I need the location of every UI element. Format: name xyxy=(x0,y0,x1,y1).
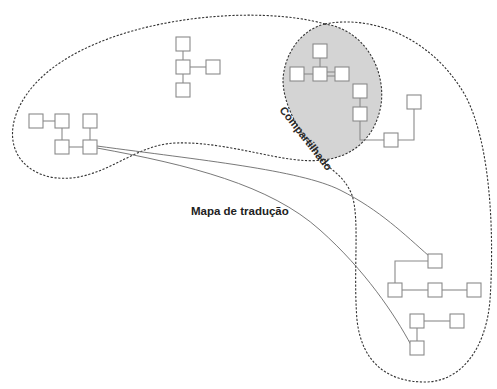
node[interactable] xyxy=(313,44,327,58)
node[interactable] xyxy=(55,114,69,128)
node[interactable] xyxy=(29,114,43,128)
node[interactable] xyxy=(353,107,367,121)
node[interactable] xyxy=(335,67,349,81)
node[interactable] xyxy=(176,83,190,97)
node[interactable] xyxy=(176,60,190,74)
node[interactable] xyxy=(407,95,421,109)
diagram-canvas xyxy=(0,0,497,389)
node[interactable] xyxy=(428,283,442,297)
node[interactable] xyxy=(290,67,304,81)
node[interactable] xyxy=(450,314,464,328)
node[interactable] xyxy=(384,133,398,147)
node[interactable] xyxy=(83,114,97,128)
cluster-bottom-right xyxy=(388,254,481,355)
translation-link-lower xyxy=(97,148,411,345)
node[interactable] xyxy=(428,254,442,268)
node[interactable] xyxy=(410,314,424,328)
translation-map-label: Mapa de tradução xyxy=(191,205,289,217)
node[interactable] xyxy=(176,37,190,51)
node[interactable] xyxy=(410,341,424,355)
node[interactable] xyxy=(83,140,97,154)
node[interactable] xyxy=(388,283,402,297)
cluster-left xyxy=(29,114,97,154)
node[interactable] xyxy=(313,67,327,81)
cluster-top-center xyxy=(176,37,220,97)
node[interactable] xyxy=(467,283,481,297)
node[interactable] xyxy=(55,140,69,154)
translation-link-upper xyxy=(97,146,429,256)
node[interactable] xyxy=(206,60,220,74)
node[interactable] xyxy=(353,84,367,98)
